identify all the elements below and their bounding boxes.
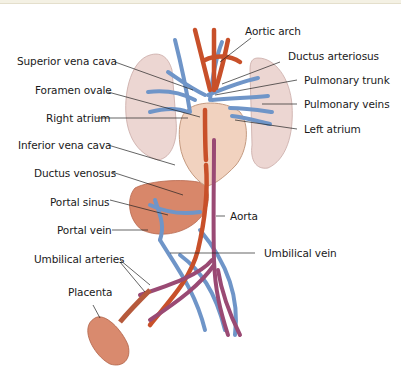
umbilical-cord <box>120 290 150 322</box>
label-portal-sinus: Portal sinus <box>50 196 109 208</box>
label-placenta: Placenta <box>68 286 112 298</box>
label-ductus-venosus: Ductus venosus <box>34 167 116 179</box>
label-umbilical-arteries: Umbilical arteries <box>34 253 125 265</box>
placenta-shape <box>88 317 129 365</box>
label-foramen-ovale: Foramen ovale <box>35 84 112 96</box>
label-ductus-arteriosus: Ductus arteriosus <box>288 50 379 62</box>
label-portal-vein: Portal vein <box>57 224 112 236</box>
label-pulmonary-trunk: Pulmonary trunk <box>304 74 390 86</box>
label-umbilical-vein: Umbilical vein <box>264 247 337 259</box>
label-left-atrium: Left atrium <box>304 123 361 135</box>
label-inferior-vena-cava: Inferior vena cava <box>18 139 111 151</box>
label-right-atrium: Right atrium <box>46 112 110 124</box>
label-aorta: Aorta <box>230 210 258 222</box>
label-aortic-arch: Aortic arch <box>245 25 301 37</box>
label-pulmonary-veins: Pulmonary veins <box>304 98 390 110</box>
liver <box>130 181 209 235</box>
label-superior-vena-cava: Superior vena cava <box>17 55 117 67</box>
